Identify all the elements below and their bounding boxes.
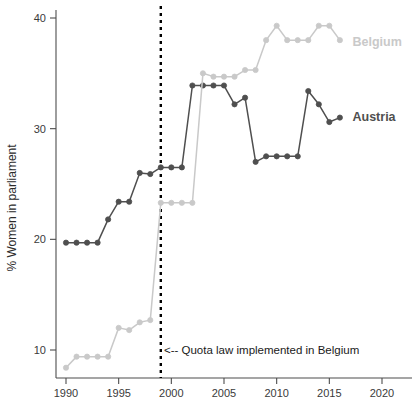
data-point-belgium xyxy=(63,365,68,370)
data-point-austria xyxy=(316,102,321,107)
data-point-austria xyxy=(295,154,300,159)
data-point-belgium xyxy=(221,74,226,79)
x-tick-label: 2005 xyxy=(212,387,236,399)
data-point-belgium xyxy=(306,38,311,43)
data-point-belgium xyxy=(116,325,121,330)
data-point-austria xyxy=(148,171,153,176)
y-tick-label: 30 xyxy=(34,123,46,135)
x-tick-label: 2000 xyxy=(159,387,183,399)
data-point-belgium xyxy=(127,327,132,332)
series-group xyxy=(63,23,342,370)
data-point-austria xyxy=(306,88,311,93)
x-tick-label: 2010 xyxy=(264,387,288,399)
data-point-belgium xyxy=(274,23,279,28)
data-point-austria xyxy=(232,102,237,107)
data-point-austria xyxy=(106,217,111,222)
data-point-belgium xyxy=(285,38,290,43)
data-point-austria xyxy=(274,154,279,159)
data-point-austria xyxy=(158,165,163,170)
data-point-belgium xyxy=(148,318,153,323)
data-point-austria xyxy=(116,199,121,204)
data-point-austria xyxy=(190,83,195,88)
data-point-belgium xyxy=(232,74,237,79)
data-point-belgium xyxy=(295,38,300,43)
data-point-austria xyxy=(221,83,226,88)
data-point-austria xyxy=(127,199,132,204)
data-point-belgium xyxy=(137,320,142,325)
quota-law-annotation: <-- Quota law implemented in Belgium xyxy=(164,344,359,356)
chart-canvas: 102030401990199520002005201020152020% Wo… xyxy=(0,0,420,407)
data-point-austria xyxy=(211,83,216,88)
data-point-belgium xyxy=(179,200,184,205)
data-point-belgium xyxy=(158,200,163,205)
annotation-group: <-- Quota law implemented in Belgium xyxy=(164,344,359,356)
series-line-belgium xyxy=(66,26,340,368)
data-point-austria xyxy=(179,165,184,170)
data-point-belgium xyxy=(169,200,174,205)
data-point-austria xyxy=(137,170,142,175)
data-point-belgium xyxy=(200,71,205,76)
data-point-austria xyxy=(84,240,89,245)
data-point-austria xyxy=(95,240,100,245)
data-point-belgium xyxy=(316,23,321,28)
data-point-belgium xyxy=(84,354,89,359)
data-point-belgium xyxy=(211,74,216,79)
data-point-austria xyxy=(285,154,290,159)
data-point-austria xyxy=(74,240,79,245)
data-point-austria xyxy=(253,159,258,164)
data-point-austria xyxy=(242,95,247,100)
data-point-belgium xyxy=(242,67,247,72)
chart-container: 102030401990199520002005201020152020% Wo… xyxy=(0,0,420,407)
data-point-austria xyxy=(337,115,342,120)
y-tick-label: 10 xyxy=(34,344,46,356)
x-tick-label: 1995 xyxy=(106,387,130,399)
data-point-belgium xyxy=(95,354,100,359)
data-point-belgium xyxy=(327,23,332,28)
data-point-austria xyxy=(327,119,332,124)
data-point-austria xyxy=(264,154,269,159)
data-point-belgium xyxy=(264,38,269,43)
series-label-austria: Austria xyxy=(353,110,397,124)
data-point-belgium xyxy=(106,354,111,359)
series-label-belgium: Belgium xyxy=(353,35,402,49)
series-label-group: AustriaBelgium xyxy=(353,35,402,124)
axis-group: 102030401990199520002005201020152020% Wo… xyxy=(5,10,412,399)
data-point-austria xyxy=(169,165,174,170)
y-tick-label: 40 xyxy=(34,12,46,24)
data-point-belgium xyxy=(190,200,195,205)
x-tick-label: 2020 xyxy=(370,387,394,399)
y-axis-title: % Women in parliament xyxy=(5,144,19,272)
data-point-belgium xyxy=(337,38,342,43)
y-tick-label: 20 xyxy=(34,233,46,245)
data-point-belgium xyxy=(74,354,79,359)
x-tick-label: 2015 xyxy=(317,387,341,399)
x-tick-label: 1990 xyxy=(54,387,78,399)
data-point-austria xyxy=(63,240,68,245)
data-point-belgium xyxy=(253,67,258,72)
